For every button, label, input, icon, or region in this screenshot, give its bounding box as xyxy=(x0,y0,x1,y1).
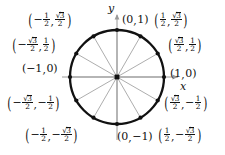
coord-label-240deg: (−12,−√32) xyxy=(24,127,79,143)
y-axis-label: y xyxy=(108,2,114,15)
unit-circle-diagram: y x (−12,√32) (0,1) (12,√32) (−√32,12) (… xyxy=(0,0,225,155)
x-axis-label: x xyxy=(180,80,186,93)
point-180deg xyxy=(68,75,72,79)
origin-marker xyxy=(115,75,120,80)
point-90deg xyxy=(115,28,119,32)
coord-label-60deg: (12,√32) xyxy=(153,12,189,28)
axes xyxy=(62,15,178,140)
point-120deg xyxy=(91,34,95,38)
point-150deg xyxy=(74,51,78,55)
coord-label-270deg: (0,−1) xyxy=(117,130,153,142)
coord-label-0deg: (1,0) xyxy=(170,67,196,79)
y-axis-arrow xyxy=(115,14,120,20)
coord-label-300deg: (12,−√32) xyxy=(157,127,202,143)
coord-label-210deg: (−√32,−12) xyxy=(6,95,61,111)
spoke-30 xyxy=(117,54,158,78)
spoke-300 xyxy=(117,77,141,118)
spoke-210 xyxy=(76,77,117,101)
spoke-240 xyxy=(94,77,118,118)
point-210deg xyxy=(74,98,78,102)
spoke-150 xyxy=(76,54,117,78)
point-330deg xyxy=(156,98,160,102)
point-270deg xyxy=(115,122,119,126)
point-60deg xyxy=(138,34,142,38)
coord-label-120deg: (−12,√32) xyxy=(27,12,72,28)
point-240deg xyxy=(91,116,95,120)
coord-label-150deg: (−√32,12) xyxy=(11,37,56,53)
spoke-120 xyxy=(94,36,118,77)
point-0deg xyxy=(162,75,166,79)
point-30deg xyxy=(156,51,160,55)
coord-label-90deg: (0,1) xyxy=(122,13,148,25)
spoke-60 xyxy=(117,36,141,77)
point-300deg xyxy=(138,116,142,120)
spoke-330 xyxy=(117,77,158,101)
coord-label-330deg: (√32,−12) xyxy=(163,95,208,111)
coord-label-180deg: (−1,0) xyxy=(22,62,58,74)
coord-label-30deg: (√32,12) xyxy=(167,37,203,53)
